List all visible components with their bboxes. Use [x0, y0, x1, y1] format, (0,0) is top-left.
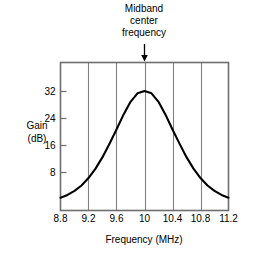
y-axis-title-line2: (dB) — [28, 133, 47, 144]
gridlines-group — [89, 63, 202, 211]
x-tick-label: 10.8 — [191, 213, 211, 224]
x-tick-label: 9.6 — [110, 213, 124, 224]
y-tick-label: 32 — [44, 86, 56, 97]
gain-curve — [61, 91, 229, 198]
plot-frame — [61, 63, 229, 211]
bandpass-gain-figure: Midband center frequency 8.89.29.61010.4… — [0, 0, 253, 255]
chart-canvas: 8.89.29.61010.410.811.2 8162432 Frequenc… — [0, 0, 253, 255]
x-axis-title: Frequency (MHz) — [105, 234, 182, 245]
y-tick-group: 8162432 — [44, 86, 66, 178]
x-tick-label: 9.2 — [82, 213, 96, 224]
x-tick-label: 8.8 — [54, 213, 68, 224]
y-axis-title-line1: Gain — [26, 120, 47, 131]
x-tick-label: 10 — [139, 213, 151, 224]
x-tick-label: 10.4 — [163, 213, 183, 224]
x-tick-label: 11.2 — [219, 213, 238, 224]
midband-arrow-icon — [141, 44, 148, 62]
y-tick-label: 8 — [50, 167, 56, 178]
x-tick-group: 8.89.29.61010.410.811.2 — [54, 213, 239, 224]
